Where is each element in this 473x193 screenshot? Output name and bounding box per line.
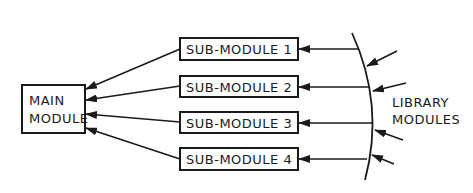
arrow-icon — [86, 49, 180, 89]
module-hierarchy-diagram: MAIN MODULE SUB-MODULE 1 SUB-MODULE 2 SU… — [0, 0, 473, 193]
sub-module-2: SUB-MODULE 2 — [180, 76, 298, 97]
sub-module-label: SUB-MODULE 4 — [186, 152, 292, 167]
library-label-line1: LIBRARY — [392, 95, 449, 110]
arrow-icon — [373, 83, 406, 91]
library-to-sub-arrows — [299, 49, 372, 159]
main-module-label-line1: MAIN — [29, 93, 65, 108]
sub-module-label: SUB-MODULE 1 — [186, 42, 292, 57]
library-boundary-arc — [352, 33, 373, 180]
sub-module-1: SUB-MODULE 1 — [180, 38, 298, 60]
arrow-icon — [375, 130, 403, 140]
library-modules-label: LIBRARY MODULES — [392, 95, 460, 127]
main-module-label-line2: MODULE — [29, 111, 88, 126]
arrow-icon — [372, 155, 394, 164]
sub-module-label: SUB-MODULE 2 — [186, 80, 292, 95]
sub-module-4: SUB-MODULE 4 — [180, 148, 298, 170]
arrow-icon — [86, 86, 180, 100]
sub-module-label: SUB-MODULE 3 — [186, 116, 292, 131]
main-module: MAIN MODULE — [22, 85, 88, 133]
arrow-icon — [86, 128, 180, 159]
sub-to-main-arrows — [86, 49, 180, 159]
sub-module-3: SUB-MODULE 3 — [180, 112, 298, 133]
library-label-line2: MODULES — [392, 112, 460, 127]
arrow-icon — [86, 114, 180, 122]
arrow-icon — [367, 51, 397, 66]
